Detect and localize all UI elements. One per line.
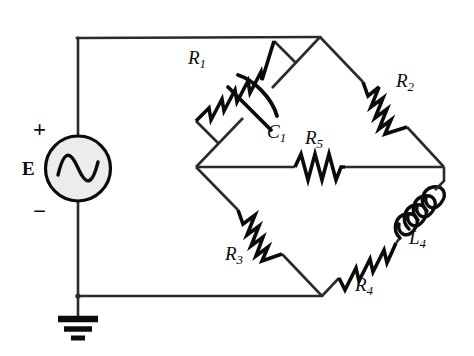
node-ground-junction bbox=[75, 293, 80, 298]
wire-top-to-r2 bbox=[320, 37, 363, 82]
component-label-c1: C1 bbox=[267, 122, 286, 145]
branch-r5 bbox=[196, 154, 444, 180]
component-label-r2: R2 bbox=[396, 71, 414, 94]
circuit-diagram: E + − R1 C1 R2 R5 R3 R4 L4 bbox=[0, 0, 474, 356]
wire-tap-lower bbox=[196, 121, 218, 143]
earth-ground-icon bbox=[58, 319, 98, 338]
component-label-l4: L4 bbox=[409, 228, 426, 251]
branch-r3 bbox=[196, 167, 322, 296]
polarity-plus: + bbox=[33, 118, 46, 141]
wire-r3-to-bottom bbox=[282, 254, 322, 296]
component-label-r1: R1 bbox=[188, 48, 206, 71]
node-junctions bbox=[75, 293, 80, 298]
outer-loop-wires bbox=[77, 37, 322, 318]
branch-r2 bbox=[320, 37, 444, 167]
wire-bottom-to-r4 bbox=[322, 278, 339, 296]
component-label-r4: R4 bbox=[355, 275, 373, 298]
resistor-r3-zigzag bbox=[238, 210, 282, 261]
resistor-r5-zigzag bbox=[295, 154, 345, 180]
wire-left-to-c1 bbox=[196, 118, 243, 167]
component-label-r3: R3 bbox=[225, 244, 243, 267]
circuit-svg bbox=[0, 0, 474, 356]
resistor-r1-zigzag bbox=[196, 41, 274, 121]
wire-r2-to-right bbox=[407, 127, 444, 167]
component-label-r5: R5 bbox=[305, 128, 323, 151]
polarity-minus: − bbox=[33, 200, 46, 223]
wire-top bbox=[77, 37, 320, 38]
source-label: E bbox=[22, 159, 35, 178]
ac-voltage-source bbox=[46, 136, 111, 201]
wire-left-to-r3 bbox=[196, 167, 238, 210]
wire-tap-upper bbox=[274, 41, 296, 63]
branch-r1-c1-parallel bbox=[196, 37, 320, 167]
